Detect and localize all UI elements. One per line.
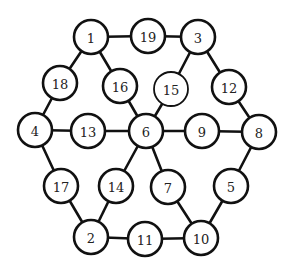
node-13: 13: [71, 114, 105, 148]
node-label: 11: [137, 233, 154, 248]
node-label: 8: [255, 126, 263, 141]
node-label: 9: [198, 125, 206, 140]
node-16: 16: [103, 69, 137, 103]
node-14: 14: [99, 169, 133, 203]
node-6: 6: [129, 114, 163, 148]
node-8: 8: [242, 115, 276, 149]
node-label: 19: [140, 30, 157, 45]
node-label: 7: [164, 181, 172, 196]
node-7: 7: [151, 170, 185, 204]
node-17: 17: [44, 169, 78, 203]
node-19: 19: [131, 19, 165, 53]
node-18: 18: [43, 66, 77, 100]
node-label: 1: [87, 31, 95, 46]
node-label: 15: [163, 83, 180, 98]
node-3: 3: [181, 20, 215, 54]
node-12: 12: [212, 70, 246, 104]
node-label: 2: [87, 231, 95, 246]
node-label: 13: [80, 125, 97, 140]
node-10: 10: [184, 221, 218, 255]
nodes-layer: 11931816151241369817147521110: [18, 19, 276, 256]
node-label: 10: [193, 232, 210, 247]
node-label: 14: [108, 180, 125, 195]
node-label: 6: [142, 125, 150, 140]
node-label: 4: [31, 124, 39, 139]
node-1: 1: [74, 20, 108, 54]
node-5: 5: [214, 169, 248, 203]
node-label: 5: [227, 180, 235, 195]
node-15: 15: [154, 72, 188, 106]
node-9: 9: [185, 114, 219, 148]
node-11: 11: [128, 222, 162, 256]
hexagon-number-graph: 11931816151241369817147521110: [0, 0, 296, 272]
node-label: 12: [221, 81, 238, 96]
node-label: 3: [194, 31, 202, 46]
node-label: 17: [53, 180, 70, 195]
node-4: 4: [18, 113, 52, 147]
node-2: 2: [74, 220, 108, 254]
node-label: 16: [112, 80, 129, 95]
node-label: 18: [52, 77, 69, 92]
